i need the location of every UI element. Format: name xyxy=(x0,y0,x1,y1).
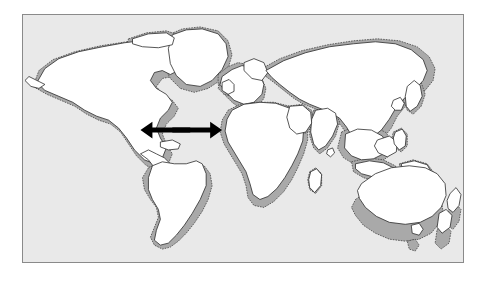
land-new-zealand-south xyxy=(437,209,452,233)
atlantic-divergence-arrow-east xyxy=(172,122,222,139)
land-india xyxy=(311,108,338,150)
land-south-america xyxy=(148,161,206,245)
map-frame xyxy=(22,14,464,263)
world-map-svg xyxy=(23,15,463,262)
landmass-layer xyxy=(25,29,461,245)
world-map-figure xyxy=(0,0,486,281)
land-caribbean xyxy=(160,140,180,150)
shelf-tasmania xyxy=(407,239,419,251)
land-sri-lanka xyxy=(327,148,335,157)
land-madagascar xyxy=(309,169,322,193)
